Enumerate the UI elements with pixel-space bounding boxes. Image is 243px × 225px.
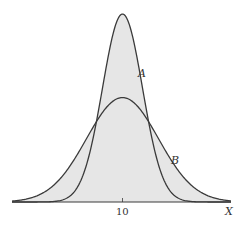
curve-a-fill	[12, 14, 231, 202]
curve-a-label: A	[138, 67, 146, 80]
curve-b-label: B	[171, 154, 179, 167]
x-axis-label: X	[225, 205, 233, 218]
normal-curves-chart	[0, 0, 243, 225]
x-tick-label-10: 10	[116, 206, 129, 217]
